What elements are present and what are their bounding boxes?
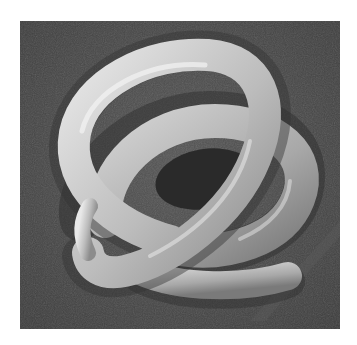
micrograph-panel [20, 21, 340, 329]
coiled-worm-micrograph [20, 21, 340, 329]
worm-head-tip [82, 206, 90, 253]
